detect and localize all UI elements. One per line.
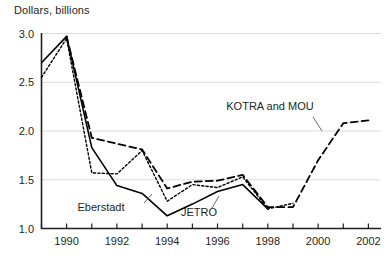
y-tick-label: 1.0	[19, 223, 34, 235]
series-line-eberstadt	[42, 36, 268, 215]
x-tick-label: 1990	[54, 235, 78, 247]
chart-container: Dollars, billions 3.02.52.01.51.0 199019…	[0, 0, 392, 258]
x-tick-label: 1994	[155, 235, 179, 247]
y-tick-label: 2.0	[19, 125, 34, 137]
y-tick-label: 3.0	[19, 28, 34, 40]
series-line-jetro	[42, 38, 294, 209]
x-tick-label: 1996	[205, 235, 229, 247]
x-tick-label: 2002	[356, 235, 380, 247]
y-tick-label: 1.5	[19, 174, 34, 186]
x-tick-labels: 1990199219941996199820002002	[54, 235, 380, 247]
gridlines	[42, 34, 382, 229]
x-tick-label: 1998	[256, 235, 280, 247]
series-annotations: EberstadtJETROKOTRA and MOU	[77, 100, 313, 218]
series-annotation-jetro: JETRO	[181, 206, 218, 218]
kotra-leader-line	[313, 117, 322, 131]
series-annotation-kotra-and-mou: KOTRA and MOU	[226, 100, 313, 112]
x-tick-label: 2000	[306, 235, 330, 247]
y-tick-labels: 3.02.52.01.51.0	[19, 28, 34, 235]
x-tick-label: 1992	[105, 235, 129, 247]
y-tick-label: 2.5	[19, 76, 34, 88]
line-chart-plot: 3.02.52.01.51.0 199019921994199619982000…	[0, 0, 392, 258]
series-annotation-eberstadt: Eberstadt	[77, 201, 124, 213]
series-line-kotra-and-mou	[67, 36, 369, 207]
